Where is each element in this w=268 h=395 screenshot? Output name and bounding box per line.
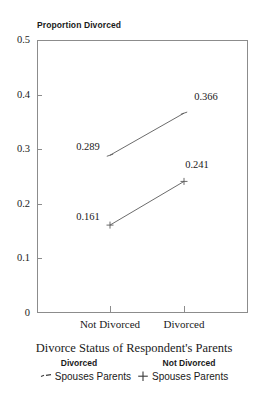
data-label-0.241: 0.241 bbox=[185, 158, 209, 171]
plot-area bbox=[37, 40, 248, 313]
legend-entry-series-1: Spouses Parents bbox=[40, 370, 131, 383]
x-tick-label-divorced: Divorced bbox=[164, 317, 205, 331]
legend-heading-series-1: Divorced bbox=[37, 358, 121, 369]
chart-figure: Proportion Divorced 00.10.20.30.40.5 Not… bbox=[0, 0, 268, 395]
legend-entries: Spouses Parents Spouses Parents bbox=[0, 370, 268, 383]
y-tick-label: 0.5 bbox=[17, 33, 30, 46]
y-tick-mark bbox=[37, 95, 42, 96]
legend: Divorced Not Divorced Spouses Parents bbox=[0, 358, 268, 383]
legend-entry-series-2: Spouses Parents bbox=[137, 370, 228, 383]
y-tick-label: 0.4 bbox=[17, 88, 30, 101]
legend-label-series-1: Spouses Parents bbox=[55, 370, 131, 383]
x-tick-mark bbox=[184, 306, 185, 313]
y-axis-title: Proportion Divorced bbox=[37, 20, 121, 30]
y-tick-label: 0 bbox=[25, 306, 30, 319]
y-tick-mark bbox=[37, 204, 42, 205]
dash-marker-icon bbox=[40, 371, 52, 382]
plus-marker-icon bbox=[137, 371, 149, 382]
chart-title: Divorce Status of Respondent's Parents bbox=[0, 341, 268, 356]
legend-heading-series-2: Not Divorced bbox=[147, 358, 231, 369]
data-label-0.289: 0.289 bbox=[76, 140, 100, 153]
legend-headings: Divorced Not Divorced bbox=[0, 358, 268, 369]
x-tick-label-not-divorced: Not Divorced bbox=[80, 317, 140, 331]
legend-label-series-2: Spouses Parents bbox=[152, 370, 228, 383]
y-tick-label: 0.3 bbox=[17, 142, 30, 155]
data-label-0.366: 0.366 bbox=[194, 90, 218, 103]
y-tick-label: 0.2 bbox=[17, 197, 30, 210]
y-tick-mark bbox=[37, 258, 42, 259]
x-tick-mark bbox=[110, 306, 111, 313]
data-label-0.161: 0.161 bbox=[76, 210, 100, 223]
y-tick-mark bbox=[37, 149, 42, 150]
y-tick-label: 0.1 bbox=[17, 251, 30, 264]
